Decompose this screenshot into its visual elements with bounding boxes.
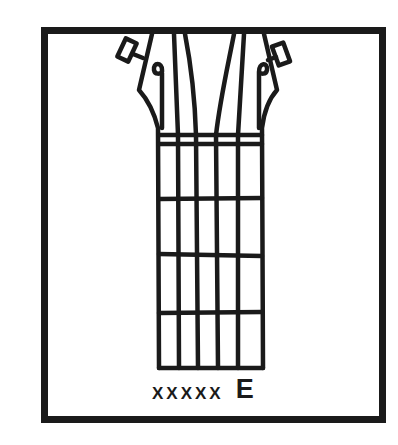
fret-2 xyxy=(159,254,262,256)
fret-1 xyxy=(159,198,262,199)
tuner-right-icon xyxy=(272,43,290,66)
fret-3 xyxy=(159,312,262,313)
chord-name: E xyxy=(236,376,254,403)
tuner-left-icon xyxy=(117,38,136,61)
headstock-right-edge xyxy=(262,34,277,368)
chord-label-row: XXXXX E xyxy=(152,376,254,403)
headstock-left-edge xyxy=(139,34,159,368)
muted-strings-marker: XXXXX xyxy=(152,385,224,402)
